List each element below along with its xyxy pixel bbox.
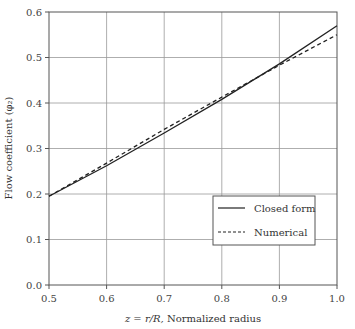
x-tick-label: 0.5: [41, 293, 57, 304]
y-tick-label: 0.6: [26, 7, 42, 18]
y-tick-label: 0.0: [26, 280, 42, 291]
axis-ticks: 0.50.60.70.80.91.00.00.10.20.30.40.50.6: [26, 7, 345, 305]
x-tick-label: 1.0: [329, 293, 345, 304]
x-axis-label: z = r/R, Normalized radius: [124, 313, 261, 324]
y-tick-label: 0.2: [26, 189, 42, 200]
y-tick-label: 0.3: [26, 143, 42, 154]
y-tick-label: 0.1: [26, 234, 42, 245]
data-series: [49, 26, 337, 197]
chart: 0.50.60.70.80.91.00.00.10.20.30.40.50.6 …: [0, 0, 355, 329]
x-tick-label: 0.6: [99, 293, 115, 304]
legend: Closed form Numerical: [213, 196, 316, 245]
legend-label-numerical: Numerical: [254, 227, 307, 238]
x-tick-label: 0.9: [271, 293, 287, 304]
y-axis-label: Flow coefficient (φ₂): [3, 96, 14, 199]
y-tick-label: 0.5: [26, 52, 42, 63]
legend-label-closed-form: Closed form: [254, 203, 316, 214]
x-tick-label: 0.8: [214, 293, 230, 304]
y-tick-label: 0.4: [26, 98, 42, 109]
x-tick-label: 0.7: [156, 293, 172, 304]
